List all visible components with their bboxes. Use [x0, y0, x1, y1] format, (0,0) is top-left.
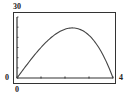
plot-area [0, 0, 128, 96]
function-curve [17, 28, 113, 78]
